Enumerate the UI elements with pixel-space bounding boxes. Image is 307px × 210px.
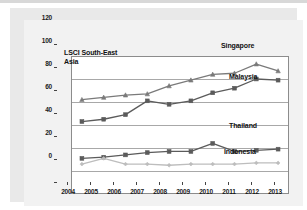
xtick-mark-2010 [205,182,206,185]
xtick-mark-2008 [159,182,160,185]
xtick-mark-2011 [228,182,229,185]
xtick-mark-2007 [136,182,137,185]
top-band [0,0,307,3]
series-malaysia [80,77,280,123]
chart-title: LSCI South-East Asia [64,49,148,66]
chart-card: 120 100 80 60 40 20 0 [24,20,303,206]
xtick-mark-2004 [67,182,68,185]
ytick-mark-0 [54,182,57,183]
ytick-mark-60 [54,113,57,114]
xtick-mark-2013 [274,182,275,185]
ytick-label-0: 0 [30,152,52,159]
ytick-mark-120 [54,44,57,45]
xtick-label-2013: 2013 [262,188,288,195]
xtick-mark-2006 [113,182,114,185]
ytick-label-20: 20 [30,129,52,136]
series-label-malaysia: Malaysia [229,73,257,80]
ytick-mark-40 [54,136,57,137]
series-label-thailand: Thailand [229,122,257,129]
ytick-label-60: 60 [30,83,52,90]
chart-title-line2: Asia [64,58,78,65]
series-indonesia [80,156,280,167]
ytick-mark-80 [54,90,57,91]
ytick-mark-20 [54,159,57,160]
series-label-indonesia: Indonesia [224,148,256,155]
chart-screenshot: 120 100 80 60 40 20 0 [0,0,307,210]
chart-title-line1: LSCI South-East [64,49,117,56]
ytick-label-100: 100 [30,37,52,44]
xtick-mark-2009 [182,182,183,185]
figure-panel: 120 100 80 60 40 20 0 [10,8,297,202]
xtick-mark-2005 [90,182,91,185]
ytick-label-120: 120 [30,14,52,21]
ytick-label-40: 40 [30,106,52,113]
ytick-mark-100 [54,67,57,68]
series-label-singapore: Singapore [221,42,254,49]
ytick-label-80: 80 [30,60,52,67]
xtick-mark-2012 [251,182,252,185]
